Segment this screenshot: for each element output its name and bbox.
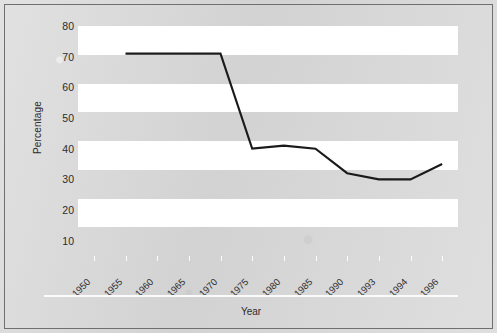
chart-page: Percentage 8070605040302010 195019551960… — [0, 0, 497, 333]
y-tick-label: 80 — [48, 21, 74, 31]
x-axis-title: Year — [44, 306, 458, 317]
y-axis-tick-labels: 8070605040302010 — [44, 26, 74, 256]
y-tick-label: 10 — [48, 236, 74, 246]
x-axis-rule — [44, 295, 458, 297]
x-axis-tick-labels: 1950195519601965197019751980198519901993… — [78, 258, 458, 298]
plot-area — [78, 26, 458, 256]
y-tick-label: 60 — [48, 82, 74, 92]
y-axis-title: Percentage — [32, 78, 43, 178]
y-tick-label: 70 — [48, 52, 74, 62]
y-tick-label: 50 — [48, 113, 74, 123]
series-polyline — [126, 54, 443, 180]
series-line-percentage — [78, 26, 458, 256]
y-tick-label: 40 — [48, 144, 74, 154]
y-tick-label: 20 — [48, 205, 74, 215]
y-tick-label: 30 — [48, 174, 74, 184]
